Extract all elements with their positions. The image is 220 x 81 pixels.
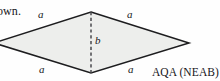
side-label-a-bottom-left: a — [39, 64, 45, 75]
side-label-a-top-left: a — [38, 9, 44, 20]
exam-board-attribution: AQA (NEAB) — [152, 67, 219, 79]
side-label-a-bottom-right: a — [128, 64, 134, 75]
side-label-a-top-right: a — [127, 9, 133, 20]
diagonal-label-b: b — [95, 35, 101, 46]
cut-off-question-text: own. — [0, 5, 21, 17]
figure-container: a a a a b own. AQA (NEAB) — [0, 0, 220, 81]
